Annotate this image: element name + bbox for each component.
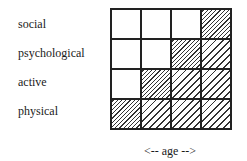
age-matrix-grid xyxy=(110,8,232,130)
grid-cell-social-3-dense xyxy=(201,9,231,39)
grid-cell-active-1-dense xyxy=(141,69,171,99)
grid-cell-physical-3-sparse xyxy=(201,99,231,129)
grid-cell-active-3-sparse xyxy=(201,69,231,99)
grid-cell-social-2-empty xyxy=(171,9,201,39)
grid-cell-psychological-2-dense xyxy=(171,39,201,69)
grid-cell-physical-2-sparse xyxy=(171,99,201,129)
grid-cell-psychological-3-sparse xyxy=(201,39,231,69)
row-label-social: social xyxy=(18,17,46,31)
x-axis-label-age: <-- age --> xyxy=(130,144,210,158)
grid-cell-psychological-1-empty xyxy=(141,39,171,69)
row-label-physical: physical xyxy=(18,104,58,118)
grid-cell-social-1-empty xyxy=(141,9,171,39)
grid-cell-psychological-0-empty xyxy=(111,39,141,69)
grid-cell-physical-0-dense xyxy=(111,99,141,129)
grid-cell-active-2-sparse xyxy=(171,69,201,99)
grid-cell-physical-1-sparse xyxy=(141,99,171,129)
row-label-psychological: psychological xyxy=(18,46,85,60)
row-label-active: active xyxy=(18,75,47,89)
grid-cell-social-0-empty xyxy=(111,9,141,39)
grid-cell-active-0-empty xyxy=(111,69,141,99)
